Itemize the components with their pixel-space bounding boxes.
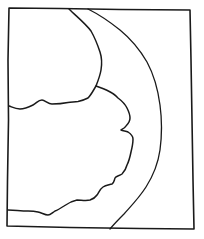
curved-band-line xyxy=(88,9,162,229)
lower-left-region-boundary xyxy=(8,86,133,215)
sketch-canvas xyxy=(0,0,204,239)
upper-left-region-boundary xyxy=(9,9,102,109)
frame-outline xyxy=(7,8,194,229)
